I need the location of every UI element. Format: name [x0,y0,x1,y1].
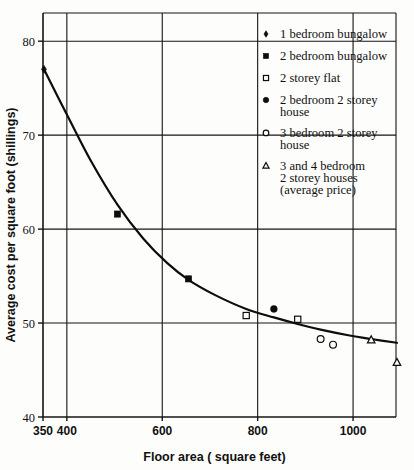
legend-marker-3 [263,97,269,103]
legend-label-5-2: (average price) [280,183,356,197]
data-point-s1-1 [185,276,191,282]
x-tick-label-800: 800 [248,424,268,438]
x-tick-label-350: 350 [33,424,53,438]
x-axis-title: Floor area ( square feet) [143,450,285,464]
legend-marker-2 [263,75,268,80]
cost-vs-floor-area-chart: 40506070803504006008001000Floor area ( s… [0,0,414,470]
legend-label-2-0: 2 storey flat [280,71,341,85]
y-tick-label-80: 80 [23,35,36,49]
data-point-s2-1 [295,316,301,322]
y-tick-label-60: 60 [23,223,36,237]
data-point-s3-0 [270,306,277,313]
x-tick-label-600: 600 [152,424,172,438]
legend-marker-1 [263,53,268,58]
fitted-curve [44,69,397,342]
data-point-s1-0 [114,211,120,217]
chart-container: 40506070803504006008001000Floor area ( s… [0,0,414,470]
y-tick-label-50: 50 [23,317,36,331]
data-point-s4-0 [317,336,324,343]
legend-label-0-0: 1 bedroom bungalow [280,27,388,41]
data-point-s4-1 [330,341,337,348]
y-tick-label-70: 70 [23,129,36,143]
legend-marker-4 [263,130,269,136]
legend-marker-0 [264,31,268,38]
y-axis-title: Average cost per square foot (shillings) [4,107,18,342]
data-point-s2-0 [243,312,249,318]
legend-label-1-0: 2 bedroom bungalow [280,49,388,63]
data-point-s5-1 [393,358,401,365]
legend-label-3-1: house [280,105,310,119]
x-tick-label-1000: 1000 [340,424,367,438]
y-tick-label-40: 40 [23,411,36,425]
x-tick-label-400: 400 [57,424,77,438]
legend-marker-5 [263,162,269,168]
legend-label-4-1: house [280,138,310,152]
